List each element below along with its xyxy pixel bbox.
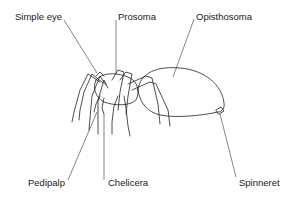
- spider-diagram: Simple eye Prosoma Opisthosoma Pedipalp …: [0, 0, 295, 200]
- spider-illustration: [0, 0, 295, 200]
- opisthosoma-shape: [138, 68, 224, 117]
- leader-pedipalp: [68, 112, 97, 180]
- label-simple-eye: Simple eye: [15, 12, 62, 22]
- leader-simple-eye: [64, 20, 97, 73]
- label-prosoma: Prosoma: [118, 12, 156, 22]
- label-pedipalp: Pedipalp: [28, 178, 65, 188]
- label-spinneret: Spinneret: [239, 178, 280, 188]
- leader-spinneret: [220, 114, 236, 177]
- label-chelicera: Chelicera: [108, 178, 148, 188]
- label-opisthosoma: Opisthosoma: [196, 12, 252, 22]
